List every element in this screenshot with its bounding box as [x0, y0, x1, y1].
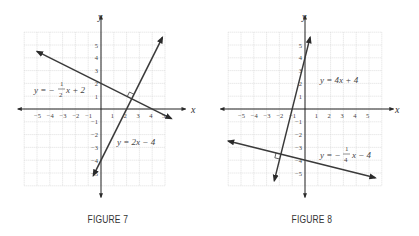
- equation-numerator: 1: [345, 145, 349, 153]
- y-tick-label: 1: [95, 93, 98, 100]
- figures-canvas: −5−4−3−2−11234554321−1−2−3−4−5 x y y = −…: [0, 0, 419, 236]
- figure-8-axes: [221, 16, 394, 198]
- y-tick-label: −2: [91, 131, 98, 138]
- x-tick-label: 5: [366, 112, 369, 119]
- y-tick-label: 4: [299, 54, 303, 61]
- y-tick-label: −3: [295, 144, 302, 151]
- y-tick-label: 3: [95, 67, 98, 74]
- x-tick-label: 2: [328, 112, 331, 119]
- y-tick-label: 1: [299, 93, 302, 100]
- equation-lhs: y = −: [319, 150, 341, 160]
- x-tick-label: 4: [149, 112, 153, 119]
- y-tick-label: 5: [299, 42, 302, 49]
- figure-7-y-axis-label: y: [97, 11, 103, 22]
- figure-7-graph: −5−4−3−2−11234554321−1−2−3−4−5 x y y = −…: [18, 11, 196, 197]
- figure-8-caption: FIGURE 8: [292, 214, 333, 225]
- y-tick-label: 5: [95, 42, 98, 49]
- figure-8-equation-1: y = 4x + 4: [319, 75, 359, 85]
- x-tick-label: 4: [353, 112, 357, 119]
- x-tick-label: 1: [315, 112, 318, 119]
- equation-numerator: 1: [60, 80, 64, 88]
- x-tick-label: 1: [111, 112, 114, 119]
- equation-lhs: y = −: [33, 85, 55, 95]
- figure-8-x-axis-label: x: [394, 104, 400, 115]
- equation-denominator: 4: [344, 156, 348, 164]
- figure-7-x-axis-label: x: [190, 104, 196, 115]
- x-tick-label: 3: [136, 112, 139, 119]
- y-tick-label: −2: [295, 131, 302, 138]
- figure-7-caption: FIGURE 7: [88, 214, 129, 225]
- figure-8-graph: −5−4−3−2−11234554321−1−2−3−4−5 x y y = 4…: [221, 11, 400, 197]
- figure-8-equation-2: y = − 1 4 x − 4: [319, 145, 372, 164]
- y-tick-label: 4: [95, 54, 99, 61]
- x-tick-label: −3: [60, 112, 67, 119]
- y-tick-label: −5: [295, 170, 302, 177]
- x-tick-label: −4: [251, 112, 259, 119]
- x-tick-label: −2: [72, 112, 79, 119]
- figure-7-equation-2: y = 2x − 4: [116, 137, 156, 147]
- equation-denominator: 2: [59, 91, 63, 99]
- figure-8-y-axis-label: y: [301, 11, 307, 22]
- x-tick-label: 3: [340, 112, 343, 119]
- x-tick-label: −2: [276, 112, 283, 119]
- x-tick-label: −5: [238, 112, 245, 119]
- y-tick-label: −1: [295, 118, 302, 125]
- x-tick-label: −5: [34, 112, 41, 119]
- y-tick-label: −1: [91, 118, 98, 125]
- x-tick-label: −4: [47, 112, 55, 119]
- y-tick-label: −4: [91, 157, 99, 164]
- x-tick-label: −3: [264, 112, 271, 119]
- equation-rhs: x + 2: [65, 85, 86, 95]
- y-tick-label: −3: [91, 144, 98, 151]
- equation-rhs: x − 4: [351, 150, 372, 160]
